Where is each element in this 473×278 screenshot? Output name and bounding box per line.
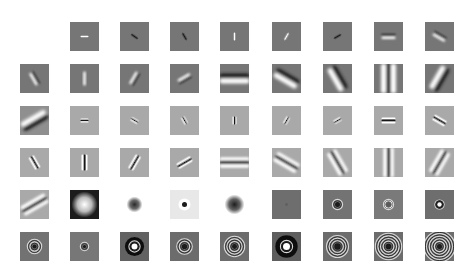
- filter-kernel-image: [425, 106, 454, 135]
- filter-kernel-image: [120, 190, 149, 219]
- filter-kernel-image: [374, 22, 403, 51]
- filter-kernel-image: [425, 232, 454, 261]
- oriented-filter-r5-c1: [20, 190, 49, 219]
- oriented-filter-r1-c5: [220, 22, 249, 51]
- filter-kernel-image: [374, 106, 403, 135]
- oriented-filter-r4-c5: [220, 148, 249, 177]
- filter-kernel-image: [20, 64, 49, 93]
- filter-kernel-image: [272, 190, 301, 219]
- oriented-filter-r1-c2: [70, 22, 99, 51]
- filter-kernel-image: [220, 106, 249, 135]
- oriented-filter-r4-c2: [70, 148, 99, 177]
- ring-filter-r5-c9: [425, 190, 454, 219]
- oriented-filter-r1-c4: [170, 22, 199, 51]
- filter-kernel-image: [170, 190, 199, 219]
- filter-bank-grid: [0, 0, 473, 278]
- filter-kernel-image: [374, 232, 403, 261]
- filter-kernel-image: [70, 22, 99, 51]
- blob-filter-r5-c3: [120, 190, 149, 219]
- oriented-filter-r4-c4: [170, 148, 199, 177]
- oriented-filter-r1-c6: [272, 22, 301, 51]
- oriented-filter-r4-c3: [120, 148, 149, 177]
- oriented-filter-r2-c4: [170, 64, 199, 93]
- filter-kernel-image: [170, 232, 199, 261]
- filter-kernel-image: [425, 22, 454, 51]
- filter-kernel-image: [323, 232, 352, 261]
- filter-kernel-image: [272, 22, 301, 51]
- filter-kernel-image: [20, 190, 49, 219]
- ring-filter-r6-c3: [120, 232, 149, 261]
- oriented-filter-r1-c9: [425, 22, 454, 51]
- oriented-filter-r3-c9: [425, 106, 454, 135]
- oriented-filter-r2-c9: [425, 64, 454, 93]
- oriented-filter-r2-c5: [220, 64, 249, 93]
- filter-kernel-image: [374, 190, 403, 219]
- ring-filter-r6-c7: [323, 232, 352, 261]
- oriented-filter-r3-c2: [70, 106, 99, 135]
- filter-kernel-image: [70, 106, 99, 135]
- blob-filter-r5-c5: [220, 190, 249, 219]
- filter-kernel-image: [272, 232, 301, 261]
- filter-kernel-image: [220, 148, 249, 177]
- filter-kernel-image: [70, 232, 99, 261]
- filter-kernel-image: [170, 148, 199, 177]
- ring-filter-r6-c1: [20, 232, 49, 261]
- ring-filter-r6-c9: [425, 232, 454, 261]
- oriented-filter-r2-c1: [20, 64, 49, 93]
- filter-kernel-image: [323, 64, 352, 93]
- oriented-filter-r1-c3: [120, 22, 149, 51]
- filter-kernel-image: [323, 106, 352, 135]
- blob-filter-r5-c4: [170, 190, 199, 219]
- filter-kernel-image: [220, 232, 249, 261]
- filter-kernel-image: [374, 148, 403, 177]
- ring-filter-r6-c5: [220, 232, 249, 261]
- ring-filter-r5-c8: [374, 190, 403, 219]
- ring-filter-r6-c6: [272, 232, 301, 261]
- filter-kernel-image: [425, 148, 454, 177]
- filter-kernel-image: [120, 106, 149, 135]
- ring-filter-r6-c2: [70, 232, 99, 261]
- oriented-filter-r3-c6: [272, 106, 301, 135]
- filter-kernel-image: [425, 64, 454, 93]
- filter-kernel-image: [170, 22, 199, 51]
- oriented-filter-r4-c1: [20, 148, 49, 177]
- oriented-filter-r1-c8: [374, 22, 403, 51]
- oriented-filter-r3-c5: [220, 106, 249, 135]
- oriented-filter-r4-c6: [272, 148, 301, 177]
- filter-kernel-image: [272, 64, 301, 93]
- oriented-filter-r3-c7: [323, 106, 352, 135]
- oriented-filter-r4-c9: [425, 148, 454, 177]
- oriented-filter-r3-c3: [120, 106, 149, 135]
- filter-kernel-image: [120, 148, 149, 177]
- oriented-filter-r2-c6: [272, 64, 301, 93]
- filter-kernel-image: [120, 64, 149, 93]
- oriented-filter-r2-c3: [120, 64, 149, 93]
- filter-kernel-image: [170, 106, 199, 135]
- oriented-filter-r4-c7: [323, 148, 352, 177]
- filter-kernel-image: [220, 190, 249, 219]
- ring-filter-r5-c7: [323, 190, 352, 219]
- filter-kernel-image: [272, 106, 301, 135]
- oriented-filter-r3-c4: [170, 106, 199, 135]
- oriented-filter-r1-c7: [323, 22, 352, 51]
- oriented-filter-r2-c2: [70, 64, 99, 93]
- filter-kernel-image: [70, 148, 99, 177]
- filter-kernel-image: [20, 232, 49, 261]
- filter-kernel-image: [220, 64, 249, 93]
- filter-kernel-image: [374, 64, 403, 93]
- filter-kernel-image: [425, 190, 454, 219]
- ring-filter-r6-c8: [374, 232, 403, 261]
- oriented-filter-r4-c8: [374, 148, 403, 177]
- filter-kernel-image: [20, 148, 49, 177]
- filter-kernel-image: [20, 106, 49, 135]
- ring-filter-r6-c4: [170, 232, 199, 261]
- filter-kernel-image: [70, 64, 99, 93]
- oriented-filter-r2-c8: [374, 64, 403, 93]
- filter-kernel-image: [120, 232, 149, 261]
- blob-filter-r5-c2: [70, 190, 99, 219]
- filter-kernel-image: [170, 64, 199, 93]
- oriented-filter-r3-c1: [20, 106, 49, 135]
- filter-kernel-image: [323, 148, 352, 177]
- filter-kernel-image: [120, 22, 149, 51]
- filter-kernel-image: [220, 22, 249, 51]
